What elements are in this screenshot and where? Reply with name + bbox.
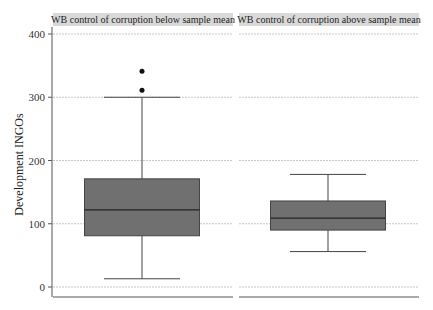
boxplot-chart: 0100200300400Development INGOsWB control…	[0, 0, 433, 310]
y-tick-label: 200	[29, 155, 46, 167]
iqr-box	[85, 179, 200, 236]
outlier-point	[140, 88, 145, 93]
y-axis-label: Development INGOs	[12, 113, 26, 216]
outlier-point	[140, 69, 145, 74]
facet-panel-2: WB control of corruption above sample me…	[237, 13, 420, 297]
y-tick-label: 300	[29, 91, 46, 103]
facet-strip-label: WB control of corruption below sample me…	[51, 14, 235, 25]
y-tick-label: 400	[29, 28, 46, 40]
iqr-box	[271, 201, 386, 230]
y-tick-label: 100	[29, 218, 46, 230]
y-tick-label: 0	[40, 281, 46, 293]
facet-strip-label: WB control of corruption above sample me…	[237, 14, 420, 25]
facet-panel-1: WB control of corruption below sample me…	[51, 13, 235, 297]
